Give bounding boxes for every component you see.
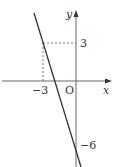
y-tick-label-3: 3 — [80, 37, 87, 50]
x-axis-label: x — [103, 84, 110, 97]
y-axis-label: y — [65, 8, 73, 21]
coordinate-graph: y 3 −3 O x −6 — [0, 0, 117, 167]
origin-label: O — [65, 84, 74, 97]
y-axis-arrow-icon — [74, 10, 79, 17]
x-axis-arrow-icon — [105, 79, 112, 84]
y-intercept-label: −6 — [80, 139, 96, 152]
x-tick-label-neg3: −3 — [32, 84, 48, 97]
